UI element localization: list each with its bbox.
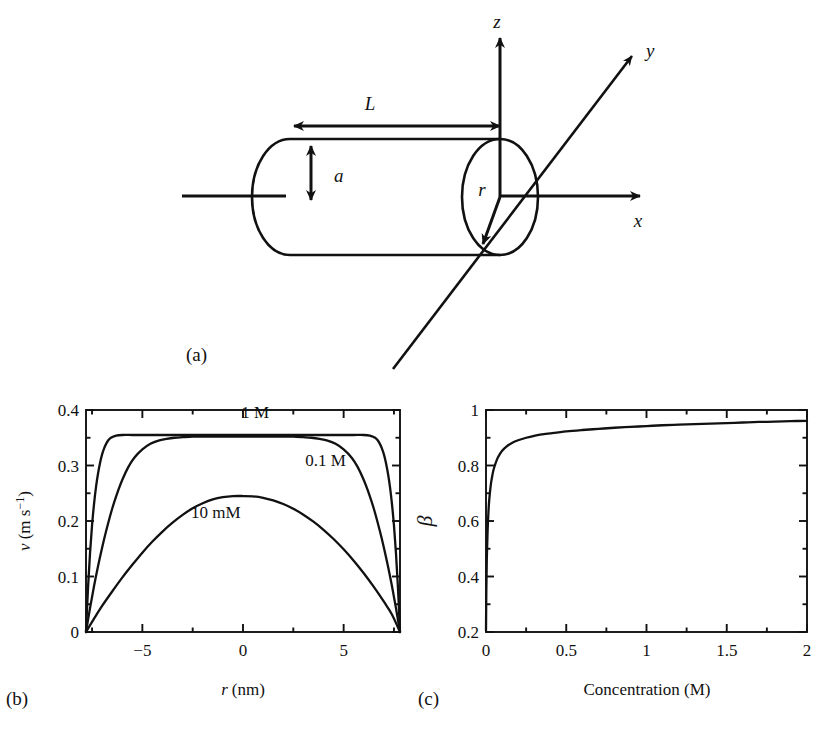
radial-coordinate-arrow — [483, 197, 500, 244]
y-tick-label: 0 — [71, 623, 80, 642]
x-tick-label: 0.5 — [556, 641, 577, 660]
y-tick-label: 0.8 — [458, 457, 479, 476]
curve-annotation: 1 M — [241, 403, 269, 422]
y-tick-label: 0.2 — [458, 623, 479, 642]
y-tick-label: 0.1 — [58, 568, 79, 587]
z-axis-label: z — [492, 11, 501, 32]
x-tick-label: 2 — [803, 641, 812, 660]
radial-coordinate-label: r — [478, 179, 486, 200]
x-tick-label: 0 — [482, 641, 491, 660]
y-tick-label: 0.6 — [458, 512, 479, 531]
data-curve — [86, 496, 400, 632]
y-tick-label: 0.4 — [458, 568, 480, 587]
y-tick-label: 0.4 — [58, 401, 80, 420]
panel-b-label: (b) — [6, 688, 28, 710]
x-axis-title: Concentration (M) — [584, 680, 711, 699]
x-tick-label: 1 — [642, 641, 651, 660]
plot-frame — [86, 410, 400, 632]
length-label: L — [364, 93, 376, 114]
y-tick-label: 0.3 — [58, 457, 79, 476]
data-curve — [86, 435, 400, 632]
figure-root: L a z x y r (a) −50500.10.20.30.41 M0.1 … — [0, 0, 830, 733]
data-curve — [486, 421, 807, 631]
data-curve — [86, 437, 400, 632]
x-axis-label: x — [633, 210, 643, 231]
x-tick-label: 5 — [339, 641, 348, 660]
panel-b-chart: −50500.10.20.30.41 M0.1 M10 mMr(nm)v(m s… — [0, 390, 420, 733]
y-axis-title: β — [412, 515, 437, 527]
y-tick-label: 0.2 — [58, 512, 79, 531]
radius-label: a — [334, 165, 344, 186]
y-axis-title: v(m s−1) — [13, 491, 34, 551]
x-tick-label: 1.5 — [716, 641, 737, 660]
curve-annotation: 10 mM — [191, 503, 241, 522]
y-axis-label: y — [644, 40, 655, 61]
plot-frame — [486, 410, 807, 632]
y-tick-label: 1 — [471, 401, 480, 420]
panel-c-chart: 00.511.520.20.40.60.81Concentration (M)β — [410, 390, 830, 733]
panel-a-label: (a) — [186, 344, 207, 366]
panel-a-diagram: L a z x y r — [0, 0, 830, 390]
y-axis-line — [393, 56, 632, 369]
x-tick-label: −5 — [133, 641, 151, 660]
x-axis-title: r(nm) — [221, 680, 265, 699]
x-tick-label: 0 — [239, 641, 248, 660]
curve-annotation: 0.1 M — [305, 451, 346, 470]
panel-c-label: (c) — [418, 688, 439, 710]
